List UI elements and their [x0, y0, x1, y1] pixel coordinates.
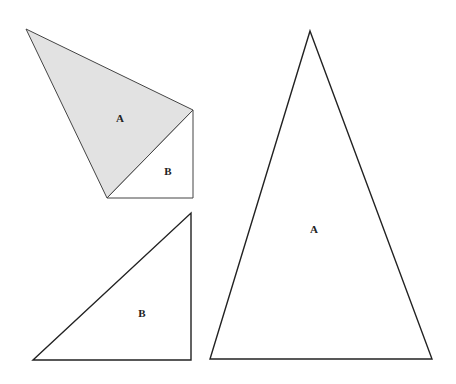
triangle-b-label: B — [138, 307, 146, 319]
triangle-b-shape — [33, 213, 191, 360]
composite-label-b: B — [164, 165, 172, 177]
right-triangle-b: B — [33, 213, 191, 360]
triangle-a-label: A — [310, 223, 318, 235]
triangle-a-shape — [210, 31, 432, 359]
diagram-canvas: A B B A — [0, 0, 456, 384]
isosceles-triangle-a: A — [210, 31, 432, 359]
composite-figure: A B — [26, 29, 193, 198]
composite-label-a: A — [116, 112, 124, 124]
